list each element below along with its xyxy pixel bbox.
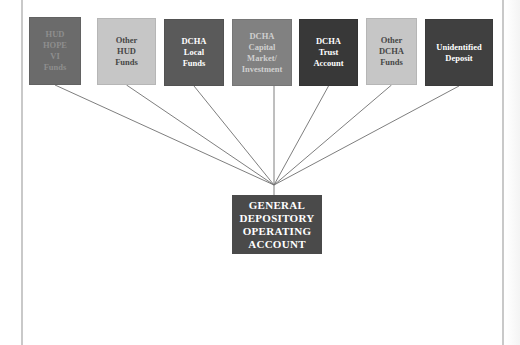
box-dcha-capital-market-investment: DCHA Capital Market/ Investment — [232, 19, 292, 86]
box-label: DCHA Local Funds — [181, 36, 206, 69]
box-other-dcha-funds: Other DCHA Funds — [366, 18, 417, 85]
box-label: Other HUD Funds — [115, 35, 138, 68]
box-dcha-trust-account: DCHA Trust Account — [299, 19, 358, 86]
box-general-depository-operating-account: GENERAL DEPOSITORY OPERATING ACCOUNT — [232, 195, 322, 254]
box-unidentified-deposit: Unidentified Deposit — [425, 19, 493, 86]
box-label: GENERAL DEPOSITORY OPERATING ACCOUNT — [239, 199, 314, 251]
connector-line-other-hud — [127, 85, 275, 185]
box-label: HUD HOPE VI Funds — [43, 29, 67, 73]
box-label: Other DCHA Funds — [379, 35, 404, 68]
box-label: DCHA Trust Account — [313, 36, 343, 69]
connector-line-dcha-local — [194, 86, 274, 185]
connector-line-hud-hope-vi — [55, 85, 274, 185]
connector-line-other-dcha — [274, 85, 392, 185]
box-label: DCHA Capital Market/ Investment — [242, 31, 283, 75]
box-hud-hope-vi-funds: HUD HOPE VI Funds — [29, 17, 81, 85]
box-dcha-local-funds: DCHA Local Funds — [164, 19, 224, 86]
box-label: Unidentified Deposit — [436, 42, 481, 64]
box-other-hud-funds: Other HUD Funds — [97, 18, 156, 85]
